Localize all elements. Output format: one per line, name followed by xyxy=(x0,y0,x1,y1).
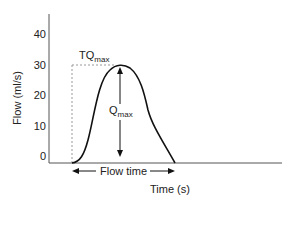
x-axis-label: Time (s) xyxy=(150,184,190,195)
y-tick-0: 0 xyxy=(26,151,46,162)
arrow-right-icon xyxy=(168,168,175,174)
y-axis-label: Flow (ml/s) xyxy=(11,63,23,133)
y-tick-20: 20 xyxy=(26,90,46,101)
q-max-sub: max xyxy=(118,110,133,119)
y-tick-40: 40 xyxy=(26,29,46,40)
arrow-up-icon xyxy=(117,67,123,74)
y-tick-10: 10 xyxy=(26,121,46,132)
tq-max-base: TQ xyxy=(79,49,94,61)
tq-max-label: TQmax xyxy=(79,50,109,64)
flow-time-label: Flow time xyxy=(100,166,147,177)
y-tick-30: 30 xyxy=(26,60,46,71)
arrow-down-icon xyxy=(117,150,123,157)
q-max-base: Q xyxy=(109,104,118,116)
arrow-left-icon xyxy=(72,168,79,174)
tq-max-sub: max xyxy=(94,55,109,64)
q-max-label: Qmax xyxy=(109,104,133,120)
